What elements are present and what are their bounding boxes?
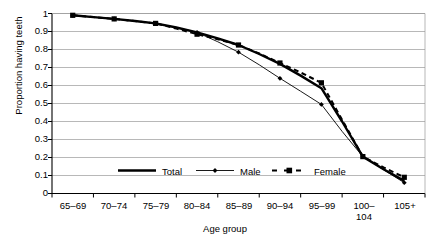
legend-marker-male [213,168,218,173]
marker-female [277,60,282,65]
marker-female [112,16,117,21]
series-line-total [73,15,405,181]
marker-female [402,175,407,180]
series-line-female [73,15,405,177]
chart-plot-area [0,0,443,241]
marker-female [194,32,199,37]
marker-female [153,21,158,26]
marker-female [360,154,365,159]
chart-figure: Proportion having teeth 1 0.9 0.8 0.7 0.… [0,0,443,241]
marker-female [70,13,75,18]
marker-female [236,42,241,47]
marker-male [278,76,283,81]
marker-female [319,80,324,85]
legend-marker-female [287,168,293,174]
marker-male [236,50,241,55]
